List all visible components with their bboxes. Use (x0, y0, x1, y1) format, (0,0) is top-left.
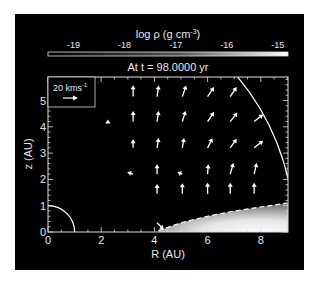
plot-title: At t = 98.0000 yr (127, 61, 208, 73)
chart-svg: log ρ (g cm-3) -19-18-17-16-15 At t = 98… (15, 14, 304, 270)
y-axis-label: z (AU) (22, 138, 34, 169)
x-tick-label: 8 (258, 234, 264, 246)
colorbar-tick: -16 (220, 40, 233, 50)
colorbar-title: log ρ (g cm-3) (136, 28, 200, 40)
colorbar (48, 52, 288, 56)
x-tick-label: 2 (98, 234, 104, 246)
x-tick-label: 4 (151, 234, 157, 246)
y-tick-label: 5 (40, 95, 46, 107)
colorbar-tick: -19 (67, 40, 80, 50)
y-tick-labels: 012345 (40, 95, 46, 239)
velocity-key: 20 kms-1 (48, 77, 95, 107)
y-tick-label: 3 (40, 147, 46, 159)
y-tick-label: 4 (40, 121, 46, 133)
colorbar-tick: -15 (271, 40, 284, 50)
colorbar-tick: -17 (169, 40, 182, 50)
colorbar-tick-labels: -19-18-17-16-15 (67, 40, 284, 50)
figure-panel: log ρ (g cm-3) -19-18-17-16-15 At t = 98… (15, 14, 304, 270)
y-tick-label: 2 (40, 173, 46, 185)
y-tick-label: 0 (40, 226, 46, 238)
x-axis-label: R (AU) (151, 248, 185, 260)
y-tick-label: 1 (40, 200, 46, 212)
colorbar-tick: -18 (118, 40, 131, 50)
x-tick-label: 6 (205, 234, 211, 246)
x-tick-labels: 02468 (45, 234, 264, 246)
